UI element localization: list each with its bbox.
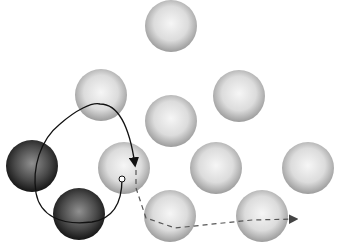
spheres-group xyxy=(6,0,334,242)
sphere-diagram xyxy=(0,0,339,251)
light-sphere xyxy=(190,142,242,194)
light-sphere xyxy=(98,142,150,194)
light-sphere xyxy=(282,142,334,194)
light-sphere xyxy=(213,70,265,122)
light-sphere xyxy=(144,190,196,242)
dark-sphere xyxy=(6,140,58,192)
light-sphere xyxy=(236,190,288,242)
start-point-marker xyxy=(119,176,125,182)
dark-sphere xyxy=(53,188,105,240)
light-sphere xyxy=(75,69,127,121)
light-sphere xyxy=(145,95,197,147)
light-sphere xyxy=(145,0,197,52)
